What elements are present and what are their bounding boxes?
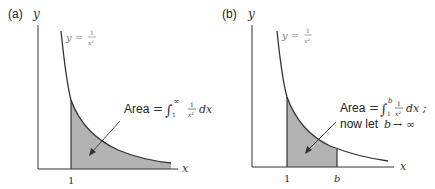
svg-text:1: 1 <box>306 27 310 34</box>
svg-text:1: 1 <box>397 100 401 107</box>
svg-text:1: 1 <box>90 29 94 36</box>
svg-text:dx: dx <box>199 103 213 116</box>
area-word: Area <box>124 102 150 116</box>
panel-a-y-axis-label: y <box>32 7 40 21</box>
panel-b-curve-label: y = 1 x² <box>281 27 312 44</box>
svg-text:b: b <box>384 118 391 131</box>
panel-b: (b) y x 1 b y = 1 x² Area = ∫ b 1 1 <box>222 7 427 184</box>
panel-b-area-annotation: Area = ∫ b 1 1 x² dx ; now let b → ∞ <box>340 97 427 131</box>
panel-b-shaded-area <box>287 97 337 167</box>
svg-text:x²: x² <box>188 111 194 118</box>
panel-a-curve-label: y = 1 x² <box>65 29 96 46</box>
panel-a-area-annotation: Area = ∫ ∞ 1 1 x² dx <box>124 97 213 118</box>
svg-text:x²: x² <box>88 39 94 46</box>
svg-text:=: = <box>369 101 379 115</box>
panel-b-tick-b: b <box>334 173 340 184</box>
svg-text:y =: y = <box>65 32 83 43</box>
svg-text:→: → <box>393 118 402 131</box>
panel-a-tick-1: 1 <box>68 175 74 186</box>
panel-a-label: (a) <box>8 7 23 21</box>
panel-b-x-axis-label: x <box>400 160 407 173</box>
panel-b-tick-1: 1 <box>284 173 290 184</box>
svg-text:dx ;: dx ; <box>406 102 427 115</box>
panel-b-label: (b) <box>222 7 237 21</box>
panel-a-x-axis-label: x <box>182 162 189 175</box>
svg-text:∞: ∞ <box>173 97 180 106</box>
svg-text:b: b <box>388 97 393 105</box>
svg-text:y =: y = <box>281 30 299 41</box>
svg-text:∞: ∞ <box>406 118 415 131</box>
svg-text:1: 1 <box>190 101 194 108</box>
svg-text:x²: x² <box>395 110 401 117</box>
panel-a: (a) y x 1 y = 1 x² Area = ∫ ∞ 1 1 x² <box>8 7 213 186</box>
svg-text:1: 1 <box>387 110 391 117</box>
now-let-text: now let <box>340 117 379 131</box>
svg-text:=: = <box>153 102 163 116</box>
svg-text:x²: x² <box>304 37 310 44</box>
figure-canvas: (a) y x 1 y = 1 x² Area = ∫ ∞ 1 1 x² <box>0 0 435 189</box>
area-word: Area <box>340 101 366 115</box>
panel-b-y-axis-label: y <box>247 7 255 21</box>
svg-text:1: 1 <box>172 111 176 118</box>
